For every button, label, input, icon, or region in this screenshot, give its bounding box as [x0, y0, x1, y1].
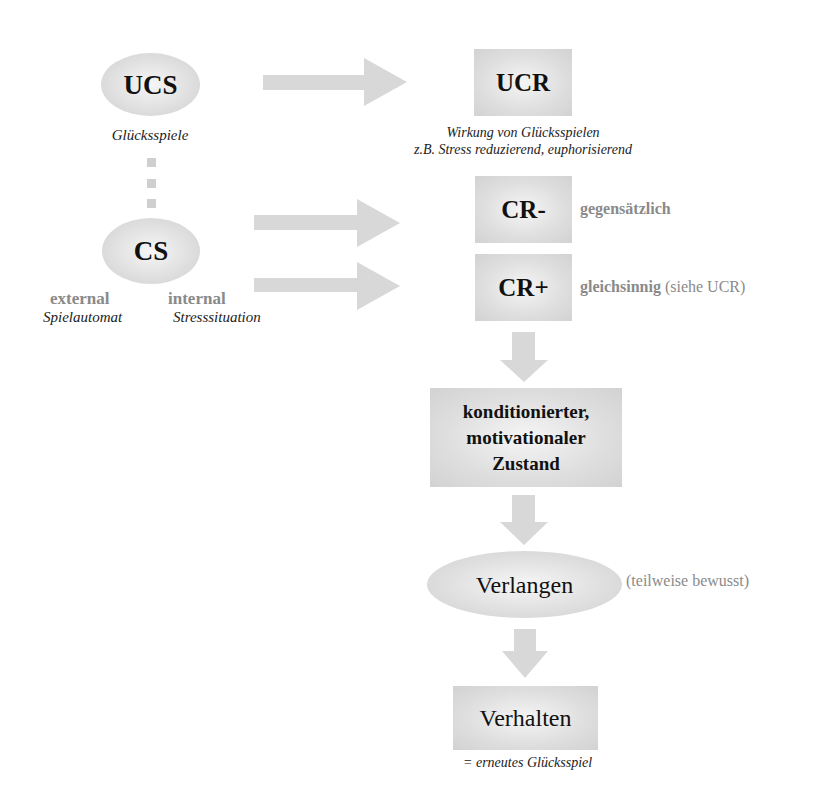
- ucs-label: UCS: [101, 69, 200, 100]
- cs-external-example: Spielautomat: [43, 309, 122, 326]
- cs-internal-label: internal: [168, 289, 226, 309]
- arrow-down-icon: [500, 332, 550, 384]
- cr-minus-node: CR-: [475, 176, 572, 243]
- behavior-label: Verhalten: [453, 705, 598, 732]
- dashed-connector-segment: [147, 158, 156, 167]
- state-line3: Zustand: [430, 451, 622, 477]
- cr-plus-note-bold: gleichsinnig: [580, 278, 661, 295]
- state-line1: konditionierter,: [430, 399, 622, 425]
- dashed-connector-segment: [147, 179, 156, 188]
- cs-label: CS: [102, 236, 200, 267]
- arrow-down-icon: [502, 629, 552, 681]
- dashed-connector-segment: [147, 199, 156, 208]
- ucr-label: UCR: [474, 69, 572, 97]
- cr-minus-note: gegensätzlich: [580, 200, 671, 218]
- cs-internal-example: Stresssituation: [173, 309, 261, 326]
- ucr-caption-line1: Wirkung von Glücksspielen: [373, 125, 673, 141]
- craving-label: Verlangen: [427, 571, 622, 598]
- motivational-state-node: konditionierter, motivationaler Zustand: [430, 388, 622, 487]
- craving-note: (teilweise bewusst): [626, 572, 749, 590]
- arrow-down-icon: [500, 495, 550, 547]
- ucs-node: UCS: [101, 53, 200, 116]
- cr-minus-label: CR-: [475, 196, 572, 224]
- cr-plus-node: CR+: [475, 254, 572, 321]
- cs-node: CS: [102, 218, 200, 284]
- behavior-caption: = erneutes Glücksspiel: [463, 755, 592, 771]
- motivational-state-text: konditionierter, motivationaler Zustand: [430, 399, 622, 477]
- arrow-right-icon: [254, 262, 404, 312]
- cr-plus-label: CR+: [475, 274, 572, 302]
- behavior-node: Verhalten: [453, 686, 598, 750]
- arrow-right-icon: [263, 58, 413, 108]
- state-line2: motivationaler: [430, 425, 622, 451]
- ucr-node: UCR: [474, 49, 572, 116]
- ucs-caption: Glücksspiele: [100, 127, 200, 144]
- ucr-caption-line2: z.B. Stress reduzierend, euphorisierend: [373, 142, 673, 158]
- arrow-right-icon: [254, 199, 404, 249]
- craving-node: Verlangen: [427, 551, 622, 618]
- cs-external-label: external: [50, 289, 109, 309]
- cr-plus-note: gleichsinnig (siehe UCR): [580, 278, 745, 296]
- cr-plus-note-normal: (siehe UCR): [661, 278, 745, 295]
